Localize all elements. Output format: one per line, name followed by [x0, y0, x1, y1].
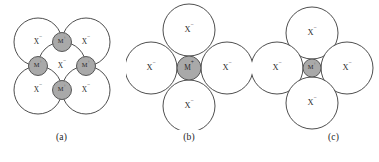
panel-c-drawing: X−X−X−X−M+ — [252, 0, 379, 130]
panel-b-caption: (b) — [126, 131, 252, 143]
panel-a-caption: (a) — [0, 131, 126, 143]
panel-b: X−X−X−X−M+ (b) — [126, 0, 252, 162]
panel-c: X−X−X−X−M+ (c) — [252, 0, 379, 162]
panel-a-drawing: X−X−X−X−X−M+M+M+M+ — [0, 0, 126, 130]
panel-b-drawing: X−X−X−X−M+ — [126, 0, 252, 130]
figure-root: X−X−X−X−X−M+M+M+M+ (a) X−X−X−X−M+ (b) X−… — [0, 0, 379, 162]
panel-c-caption: (c) — [252, 131, 379, 143]
panel-a: X−X−X−X−X−M+M+M+M+ (a) — [0, 0, 126, 162]
